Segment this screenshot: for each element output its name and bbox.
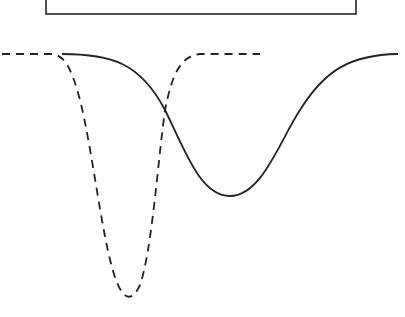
dashed-curve	[2, 54, 260, 297]
top-box	[46, 0, 356, 14]
diagram-canvas	[0, 0, 405, 317]
solid-curve	[62, 54, 398, 196]
